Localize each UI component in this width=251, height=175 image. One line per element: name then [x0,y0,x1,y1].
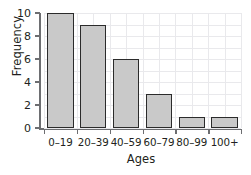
x-axis-tick [44,129,45,134]
x-axis-tick-label: 80–99 [176,136,207,148]
bar [113,59,139,128]
x-axis-title: Ages [41,152,241,166]
y-axis-tick-label: 0 [24,122,31,135]
y-axis-tick [35,81,40,82]
gridline-vertical [241,13,242,128]
gridline-vertical [44,13,45,128]
y-axis-tick-label: 10 [17,7,31,20]
x-axis-tick [241,129,242,134]
x-axis-tick [175,129,176,134]
x-axis-tick [208,129,209,134]
bar [179,117,205,129]
x-axis-tick [77,129,78,134]
gridline-vertical [77,13,78,128]
plot-area: 02468100–1920–3940–5960–7980–99100+ [44,13,241,128]
bar [146,94,172,129]
y-axis-tick-label: 4 [24,76,31,89]
y-axis-tick [35,127,40,128]
bar [80,25,106,129]
y-axis-tick-label: 2 [24,99,31,112]
y-axis-tick [35,58,40,59]
x-axis-tick-label: 0–19 [48,136,72,148]
x-axis-tick [143,129,144,134]
y-axis-tick-label: 6 [24,53,31,66]
bar [211,117,237,129]
x-axis-tick-label: 20–39 [78,136,109,148]
gridline-vertical [225,13,226,128]
y-axis-tick-label: 8 [24,30,31,43]
x-axis-tick-label: 100+ [211,136,239,148]
histogram-chart: Frequency 02468100–1920–3940–5960–7980–9… [0,0,251,175]
bar [47,13,73,128]
x-axis-tick-label: 60–79 [143,136,174,148]
gridline-vertical [175,13,176,128]
y-axis-tick [35,12,40,13]
gridline-vertical [110,13,111,128]
gridline-vertical [143,13,144,128]
x-axis-tick [110,129,111,134]
gridline-vertical [192,13,193,128]
x-axis-tick-label: 40–59 [111,136,142,148]
y-axis-tick [35,104,40,105]
gridline-vertical [208,13,209,128]
y-axis-tick [35,35,40,36]
y-axis-line [39,13,41,128]
